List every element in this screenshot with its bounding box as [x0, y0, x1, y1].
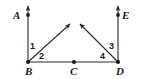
angle-label-2: 2 [39, 52, 44, 61]
point-label-C: C [70, 66, 77, 77]
point-label-A: A [13, 10, 20, 21]
point-marker-B [26, 60, 30, 64]
point-marker-C [72, 60, 76, 64]
point-label-B: B [25, 66, 32, 77]
angle-label-4: 4 [100, 52, 105, 61]
angle-label-1: 1 [30, 42, 35, 51]
point-marker-E [116, 13, 120, 17]
point-label-D: D [116, 66, 124, 77]
point-label-E: E [122, 10, 129, 21]
point-marker-D [116, 60, 120, 64]
point-marker-A [26, 13, 30, 17]
geometry-diagram: A E B C D 1 2 3 4 [0, 0, 146, 79]
angle-label-3: 3 [109, 42, 114, 51]
